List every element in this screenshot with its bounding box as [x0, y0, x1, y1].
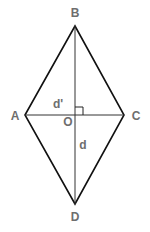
long-diagonal-label: d — [79, 138, 86, 152]
vertex-label-d: D — [71, 210, 80, 224]
vertex-label-c: C — [132, 109, 141, 123]
right-angle-marker — [75, 107, 83, 115]
rhombus-diagram: B A C D O d' d — [0, 0, 150, 232]
short-diagonal-label: d' — [53, 97, 63, 111]
vertex-label-b: B — [71, 6, 80, 20]
center-label-o: O — [63, 115, 72, 129]
vertex-label-a: A — [11, 109, 20, 123]
